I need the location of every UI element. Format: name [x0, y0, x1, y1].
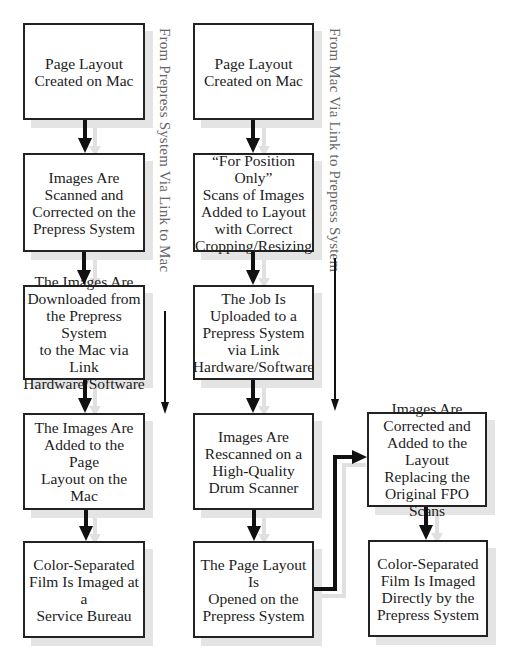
- flow-arrows: [0, 0, 508, 665]
